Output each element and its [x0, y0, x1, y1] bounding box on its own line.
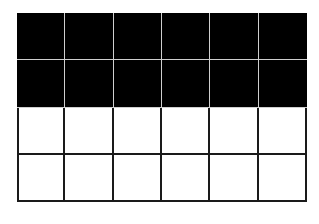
grid-cell-empty [114, 108, 162, 155]
grid-cell-empty [65, 155, 113, 202]
grid-cell-filled [17, 13, 65, 60]
grid-cell-empty [65, 108, 113, 155]
grid-cell-filled [114, 13, 162, 60]
grid-cell-empty [17, 108, 65, 155]
grid-cell-filled [259, 13, 307, 60]
grid-cell-filled [162, 13, 210, 60]
grid-cell-empty [114, 155, 162, 202]
grid-cell-empty [259, 108, 307, 155]
grid-cell-empty [17, 155, 65, 202]
grid-cell-empty [210, 155, 258, 202]
grid-cell-filled [210, 13, 258, 60]
grid-cell-filled [17, 60, 65, 107]
fraction-grid [17, 13, 307, 202]
grid-cell-empty [259, 155, 307, 202]
grid-cell-empty [162, 155, 210, 202]
grid-cell-empty [162, 108, 210, 155]
grid-cell-filled [65, 60, 113, 107]
grid-cell-filled [259, 60, 307, 107]
grid-cell-filled [162, 60, 210, 107]
grid-cell-filled [65, 13, 113, 60]
grid-cell-filled [114, 60, 162, 107]
grid-cell-filled [210, 60, 258, 107]
grid-cell-empty [210, 108, 258, 155]
